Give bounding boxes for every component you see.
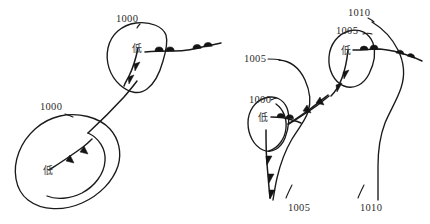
weather-chart-canvas: 1000 1000 低 低 [0, 0, 430, 224]
isobar-label: 1005 [244, 53, 266, 64]
isobar-label: 1010 [348, 7, 370, 18]
isobar-label: 1005 [336, 25, 358, 36]
warm-front-bump-icon [277, 113, 284, 117]
low-center-label: 低 [258, 111, 268, 123]
weather-analysis-svg: 1000 1000 低 低 [0, 0, 430, 224]
isobar-label: 1000 [40, 101, 62, 112]
isobar-label: 1000 [116, 13, 138, 24]
isobar-label: 1005 [288, 202, 310, 213]
isobar-label: 1010 [360, 202, 382, 213]
low-center-label: 低 [132, 42, 142, 54]
isobar-label: 1000 [249, 94, 271, 105]
low-center-label: 低 [341, 44, 351, 56]
low-center-label: 低 [43, 164, 53, 176]
